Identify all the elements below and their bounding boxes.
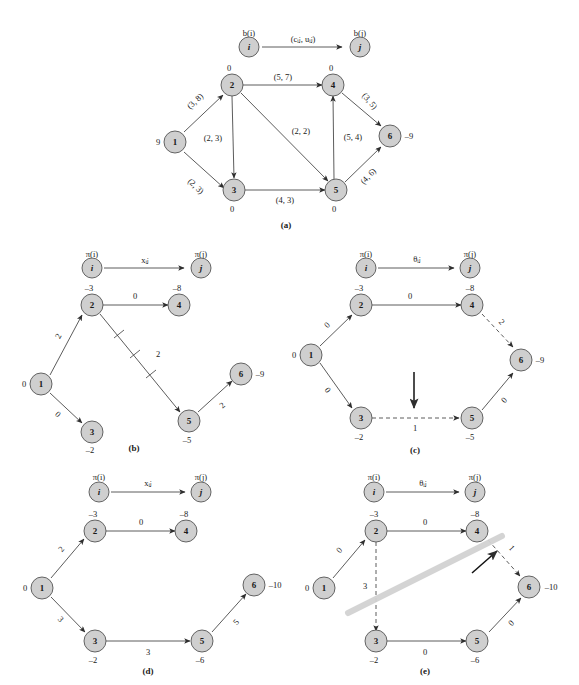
panel-a-edge-2-5: [241, 93, 328, 181]
panel-b-legend-source-top-label: π(i): [86, 249, 98, 259]
panel-b-edge-1-3: [50, 393, 82, 423]
panel-a-edge-2-4-label: (5, 7): [274, 72, 293, 82]
panel-a-node-2-supply: 0: [227, 63, 231, 73]
panel-e-node-3-label: 3: [374, 636, 379, 646]
panel-b-node-3-potential: –2: [85, 445, 95, 455]
panel-e-node-6-label: 6: [527, 582, 532, 592]
panel-e-node-1-potential: 0: [305, 583, 309, 593]
panel-d-node-4-label: 4: [184, 526, 189, 536]
panel-d-edge-1-2: [51, 539, 84, 578]
panel-c-legend-source-top-label: π(i): [360, 249, 372, 259]
panel-d-node-5-potential: –6: [195, 655, 205, 665]
panel-c-nodes: 1 0 2 –3 3 –2 4 –8 5 –5 6 –9: [292, 283, 544, 442]
panel-e: π(i) π(j) θᵢⱼ i j 0 0 3 0 1 0: [305, 472, 558, 676]
panel-b-node-1-label: 1: [39, 379, 44, 389]
panel-e-node-5-potential: –6: [470, 655, 480, 665]
panel-e-edge-1-2: [333, 540, 365, 578]
panel-a-node-1-label: 1: [173, 137, 178, 147]
panel-b-node-3-label: 3: [90, 427, 95, 437]
panel-a-node-1-supply: 9: [156, 137, 160, 147]
panel-c-legend: π(i) π(j) θᵢⱼ i j: [356, 249, 480, 278]
panel-a-edge-4-6-label: (3, 5): [360, 91, 380, 112]
panel-b-caption: (b): [129, 443, 140, 453]
panel-c-node-6-label: 6: [519, 355, 524, 365]
panel-b-edge-1-3-label: 0: [53, 409, 63, 419]
panel-d-edge-1-3: [51, 597, 85, 632]
panel-a-node-6-label: 6: [388, 131, 393, 141]
panel-c-node-3-potential: –2: [354, 432, 364, 442]
panel-c-node-2-potential: –3: [354, 283, 364, 293]
panel-d-node-5-label: 5: [200, 636, 205, 646]
panel-e-node-2-potential: –3: [369, 509, 379, 519]
panel-e-legend-target-top-label: π(j): [469, 472, 481, 482]
panel-e-caption: (e): [420, 666, 430, 676]
panel-e-node-4-label: 4: [475, 526, 480, 536]
panel-e-edge-1-2-label: 0: [334, 545, 344, 555]
panel-b-node-2-label: 2: [90, 300, 95, 310]
network-flow-figure: b(i) b(j) (cᵢⱼ, uᵢⱼ) i j (3, 8) (2, 3) (…: [0, 0, 579, 685]
panel-e-nodes: 1 0 2 –3 3 –2 4 –8 5 –6 6 –10: [305, 509, 558, 665]
panel-e-legend-source-top-label: π(i): [368, 472, 380, 482]
panel-a-node-3-label: 3: [232, 185, 237, 195]
panel-b-node-4-label: 4: [177, 300, 182, 310]
panel-a-edge-2-3: [232, 96, 234, 178]
panel-c-edge-3-5-label: 1: [413, 423, 417, 433]
panel-c-legend-edge-label: θᵢⱼ: [413, 254, 420, 264]
panel-c-edge-1-2: [320, 315, 352, 346]
panel-c-node-1-label: 1: [309, 350, 314, 360]
panel-b: π(i) π(j) xᵢⱼ i j 2 0 0 2 2: [22, 249, 264, 455]
panel-c-edge-5-6: [482, 373, 513, 410]
panel-b-edge-2-5-crossmarks: [114, 330, 156, 378]
panel-c-edge-5-6-label: 0: [499, 395, 509, 405]
panel-d-caption: (d): [143, 666, 154, 676]
panel-c-node-5-potential: –5: [465, 432, 475, 442]
panel-d-node-2-label: 2: [93, 526, 98, 536]
panel-a-legend: b(i) b(j) (cᵢⱼ, uᵢⱼ) i j: [239, 28, 370, 57]
panel-d-legend-edge-label: xᵢⱼ: [144, 478, 152, 488]
panel-e-node-1-label: 1: [322, 583, 327, 593]
panel-e-up-arrow-icon: [472, 551, 497, 573]
panel-c-edges: 0 0 0 1 2 0: [320, 291, 513, 433]
panel-c-edge-4-6-label: 2: [497, 317, 507, 327]
panel-c-node-4-potential: –8: [465, 283, 475, 293]
panel-c-node-6-potential: –9: [535, 355, 545, 365]
panel-d-edges: 2 3 0 3 5: [51, 517, 246, 657]
panel-b-edge-2-4-label: 0: [133, 291, 137, 301]
panel-a-edge-3-5-label: (4, 3): [276, 195, 295, 205]
panel-e-edge-5-6-label: 0: [506, 618, 516, 628]
panel-d-edge-2-4-label: 0: [139, 517, 143, 527]
panel-a-edge-2-3-label: (2, 3): [204, 133, 223, 143]
panel-d-edge-1-3-label: 3: [56, 614, 66, 624]
panel-a: b(i) b(j) (cᵢⱼ, uᵢⱼ) i j (3, 8) (2, 3) (…: [156, 28, 413, 230]
panel-e-edge-4-6-label: 1: [507, 543, 517, 553]
panel-c-node-1-potential: 0: [292, 350, 296, 360]
panel-c: π(i) π(j) θᵢⱼ i j 0 0 0 1 2 0: [292, 249, 544, 455]
panel-a-legend-target-top-label: b(j): [354, 28, 366, 38]
panel-b-edge-2-5: [100, 314, 180, 412]
panel-a-edge-2-5-label: (2, 2): [292, 126, 311, 136]
panel-a-edge-5-6-label: (4, 6): [358, 166, 378, 186]
panel-d-node-2-potential: –3: [88, 509, 98, 519]
panel-a-caption: (a): [281, 220, 292, 230]
panel-e-node-2-label: 2: [374, 526, 379, 536]
panel-d: π(i) π(j) xᵢⱼ i j 2 3 0 3 5 1 0: [23, 472, 282, 676]
panel-a-legend-edge-label: (cᵢⱼ, uᵢⱼ): [291, 34, 316, 44]
panel-b-node-1-potential: 0: [22, 379, 26, 389]
panel-d-node-4-potential: –8: [179, 509, 189, 519]
panel-d-legend: π(i) π(j) xᵢⱼ i j: [89, 472, 211, 502]
panel-c-node-3-label: 3: [359, 413, 364, 423]
panel-a-edge-5-4: [333, 96, 334, 179]
panel-c-edge-4-6: [482, 314, 513, 347]
panel-b-edge-1-2-label: 2: [53, 332, 64, 340]
panel-a-edge-1-3-label: (2, 3): [186, 176, 206, 196]
panel-b-edges: 2 0 0 2 2: [50, 291, 232, 423]
panel-a-node-5-supply: 0: [332, 204, 336, 214]
panel-a-node-4-label: 4: [331, 80, 336, 90]
panel-b-legend-target-top-label: π(j): [195, 249, 207, 259]
panel-d-node-3-potential: –2: [88, 655, 98, 665]
panel-d-legend-source-top-label: π(i): [93, 472, 105, 482]
panel-e-node-4-potential: –8: [470, 509, 480, 519]
panel-a-edges: (3, 8) (2, 3) (5, 7) (2, 3) (2, 2) (4, 3…: [184, 72, 381, 205]
panel-b-node-5-label: 5: [187, 416, 192, 426]
panel-a-node-6-supply: –9: [404, 131, 414, 141]
